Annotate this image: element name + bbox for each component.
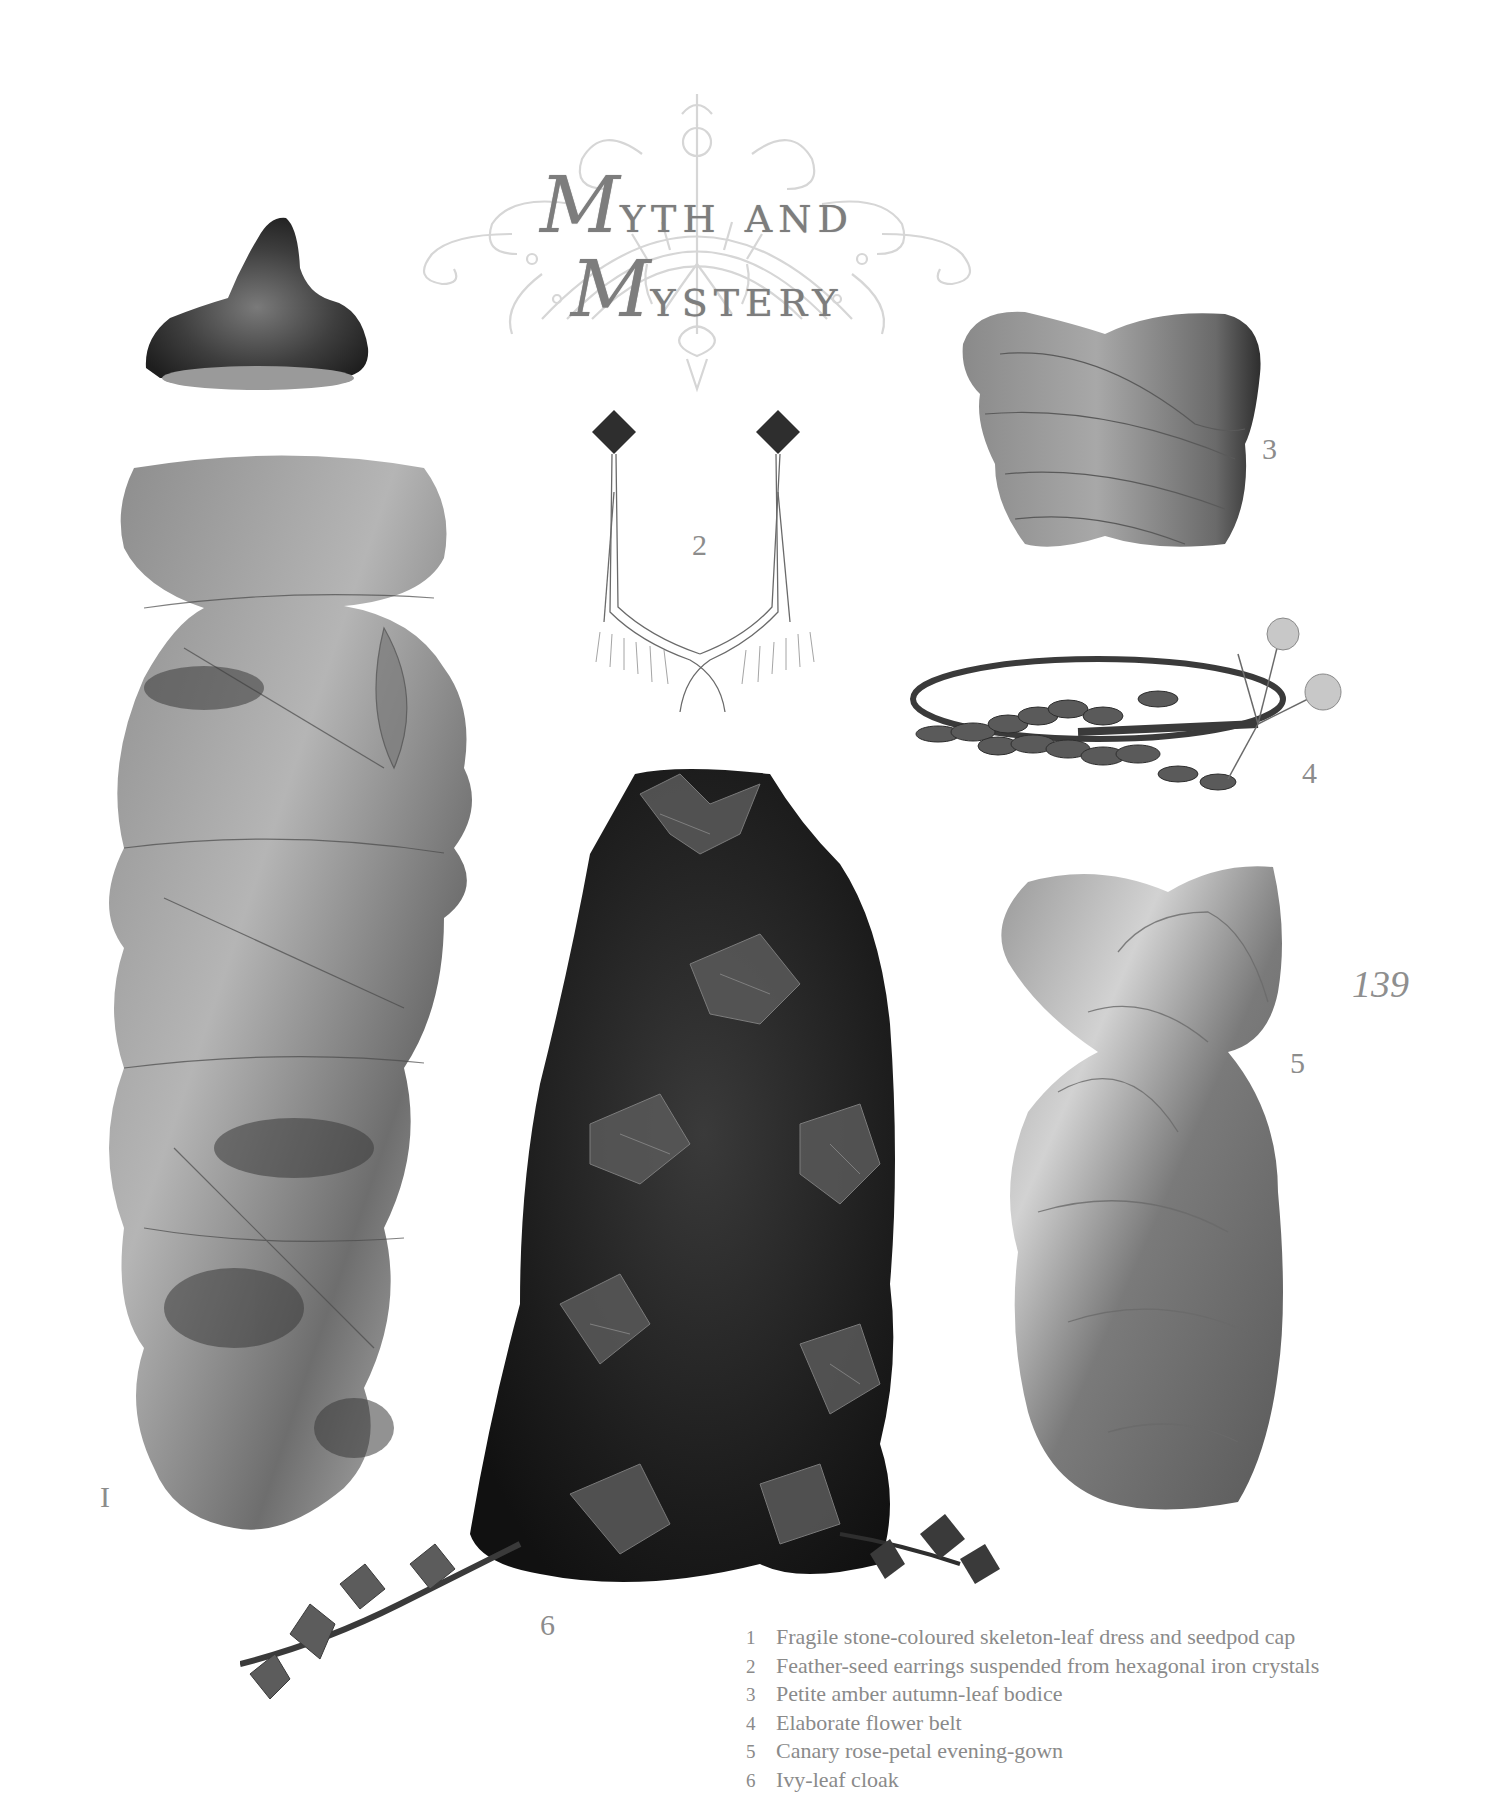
item-label-2: 2 [692, 528, 707, 562]
item-label-1: I [100, 1480, 110, 1514]
caption-number: 6 [740, 1770, 776, 1792]
caption-item: 4 Elaborate flower belt [740, 1710, 1460, 1739]
caption-item: 2 Feather-seed earrings suspended from h… [740, 1653, 1460, 1682]
autumn-leaf-bodice-icon [955, 304, 1267, 554]
caption-item: 3 Petite amber autumn-leaf bodice [740, 1681, 1460, 1710]
item-label-5: 5 [1290, 1046, 1305, 1080]
item-label-3: 3 [1262, 432, 1277, 466]
caption-number: 2 [740, 1656, 776, 1678]
caption-item: 1 Fragile stone-coloured skeleton-leaf d… [740, 1624, 1460, 1653]
caption-item: 6 Ivy-leaf cloak [740, 1767, 1460, 1796]
caption-text: Feather-seed earrings suspended from hex… [776, 1653, 1319, 1679]
page-title-line-2: Mystery [392, 244, 1002, 334]
item-label-4: 4 [1302, 756, 1317, 790]
page-title-line-1: Myth and [392, 160, 1002, 250]
caption-text: Ivy-leaf cloak [776, 1767, 899, 1793]
caption-text: Canary rose-petal evening-gown [776, 1738, 1063, 1764]
caption-list: 1 Fragile stone-coloured skeleton-leaf d… [740, 1624, 1460, 1795]
ivy-leaf-cloak-icon [240, 764, 1020, 1704]
ivy-leaf-cloak-photo [240, 764, 1020, 1704]
title-ornament: Myth and Mystery [392, 84, 1002, 404]
caption-number: 3 [740, 1684, 776, 1706]
caption-item: 5 Canary rose-petal evening-gown [740, 1738, 1460, 1767]
seedpod-cap-icon [140, 208, 372, 394]
caption-number: 5 [740, 1741, 776, 1763]
autumn-leaf-bodice-photo [955, 304, 1267, 554]
book-page: Myth and Mystery [0, 0, 1496, 1808]
caption-number: 4 [740, 1713, 776, 1735]
caption-number: 1 [740, 1627, 776, 1649]
seedpod-cap-photo [140, 208, 372, 394]
caption-text: Elaborate flower belt [776, 1710, 962, 1736]
page-number: 139 [1352, 962, 1409, 1006]
caption-text: Fragile stone-coloured skeleton-leaf dre… [776, 1624, 1295, 1650]
rose-petal-gown-photo [978, 852, 1283, 1512]
caption-text: Petite amber autumn-leaf bodice [776, 1681, 1063, 1707]
item-label-6: 6 [540, 1608, 555, 1642]
rose-petal-gown-icon [978, 852, 1283, 1512]
